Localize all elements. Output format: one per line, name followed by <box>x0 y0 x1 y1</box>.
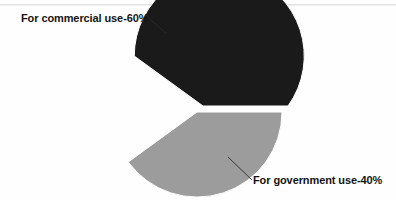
pie-chart-graphic <box>0 0 396 200</box>
pie-slice-commercial[interactable] <box>134 0 304 106</box>
pie-label-government: For government use-40% <box>253 174 382 186</box>
pie-label-commercial: For commercial use-60% <box>21 12 148 24</box>
pie-chart-figure: For commercial use-60% For government us… <box>0 0 396 200</box>
